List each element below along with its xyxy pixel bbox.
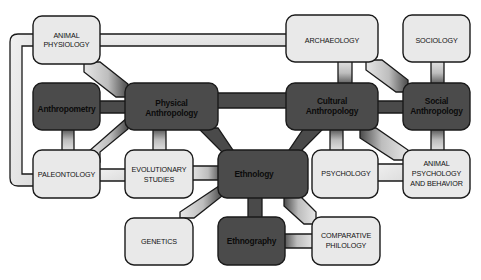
node-genetics[interactable]: GENETICS: [125, 218, 193, 265]
node-archaeology[interactable]: ARCHAEOLOGY: [286, 15, 378, 62]
edge-ethnology-comparative-philology: [284, 196, 316, 224]
edge-physical-anthropology-evolutionary-studies: [153, 128, 166, 152]
node-label: SOCIOLOGY: [415, 36, 458, 45]
edge-anthropometry-paleontology: [62, 128, 74, 152]
node-ethnology[interactable]: Ethnology: [218, 150, 308, 198]
node-label: Ethnography: [227, 236, 277, 246]
node-social-anthropology[interactable]: SocialAnthropology: [403, 83, 470, 130]
node-ethnography[interactable]: Ethnography: [218, 217, 285, 265]
edge-cultural-anthropology-social-anthropology: [376, 101, 406, 113]
node-label: COMPARATIVEPHILOLOGY: [321, 231, 371, 250]
node-label: Anthropometry: [38, 104, 96, 114]
node-cultural-anthropology[interactable]: CulturalAnthropology: [286, 83, 378, 130]
edge-archaeology-cultural-anthropology: [338, 60, 352, 86]
edge-ethnography-comparative-philology: [283, 234, 314, 248]
node-label: Ethnology: [234, 169, 274, 179]
node-animal-psychology-and-behavior[interactable]: ANIMALPSYCHOLOGYAND BEHAVIOR: [403, 150, 470, 198]
edge-sociology-social-anthropology: [431, 60, 444, 86]
node-animal-physiology[interactable]: ANIMALPHYSIOLOGY: [33, 16, 100, 64]
edge-paleontology-evolutionary-studies: [98, 169, 128, 181]
node-psychology[interactable]: PSYCHOLOGY: [312, 150, 378, 198]
node-label: PALEONTOLOGY: [38, 170, 96, 179]
node-label: GENETICS: [141, 237, 177, 246]
edge-psychology-animal-psychology: [376, 164, 406, 181]
anthropology-diagram: ANIMALPHYSIOLOGY ARCHAEOLOGY SOCIOLOGY A…: [0, 0, 481, 280]
node-sociology[interactable]: SOCIOLOGY: [403, 15, 470, 62]
node-comparative-philology[interactable]: COMPARATIVEPHILOLOGY: [312, 217, 380, 265]
edge-physical-anthropology-cultural-anthropology: [216, 93, 290, 108]
node-paleontology[interactable]: PALEONTOLOGY: [33, 150, 100, 198]
edge-social-anthropology-animal-psychology: [431, 128, 444, 152]
edge-animal-physiology-paleontology: [10, 34, 36, 186]
node-anthropometry[interactable]: Anthropometry: [33, 83, 100, 130]
node-label: PSYCHOLOGY: [321, 169, 371, 178]
edge-animal-physiology-archaeology: [98, 34, 290, 46]
node-label: ARCHAEOLOGY: [305, 36, 360, 45]
node-physical-anthropology[interactable]: PhysicalAnthropology: [125, 83, 218, 130]
nodes: ANIMALPHYSIOLOGY ARCHAEOLOGY SOCIOLOGY A…: [33, 15, 470, 265]
node-evolutionary-studies[interactable]: EVOLUTIONARYSTUDIES: [125, 150, 193, 198]
connectors: [10, 34, 444, 248]
edge-anthropometry-physical-anthropology: [98, 101, 128, 113]
edge-cultural-anthropology-psychology: [330, 128, 343, 152]
